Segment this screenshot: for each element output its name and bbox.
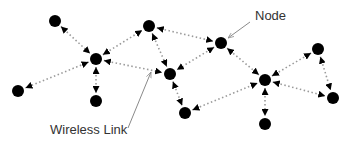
wireless-link — [273, 82, 326, 96]
wireless-link — [61, 26, 90, 53]
network-node — [327, 92, 339, 104]
network-node — [312, 43, 324, 55]
node-callout-arrow — [228, 22, 250, 38]
network-node — [12, 85, 24, 97]
network-node — [259, 74, 271, 86]
network-diagram: Node Wireless Link — [0, 0, 359, 145]
network-node — [215, 37, 227, 49]
wireless-links — [25, 26, 330, 116]
wireless-link-label: Wireless Link — [50, 122, 128, 137]
network-node — [90, 95, 102, 107]
wireless-link — [272, 53, 311, 76]
wireless-link — [25, 62, 88, 88]
wireless-link — [103, 30, 142, 55]
wireless-link-callout-arrow — [128, 72, 151, 128]
network-node — [259, 118, 271, 130]
wireless-link — [152, 33, 167, 66]
wireless-link — [192, 83, 257, 110]
node-label: Node — [255, 8, 286, 23]
wireless-link — [104, 61, 162, 73]
network-node — [164, 68, 176, 80]
network-node — [179, 107, 191, 119]
wireless-link — [320, 57, 330, 91]
wireless-link — [173, 81, 182, 105]
wireless-link — [227, 48, 259, 75]
wireless-link — [157, 28, 213, 41]
network-node — [143, 20, 155, 32]
network-node — [90, 53, 102, 65]
wireless-link — [177, 47, 214, 70]
network-node — [49, 15, 61, 27]
